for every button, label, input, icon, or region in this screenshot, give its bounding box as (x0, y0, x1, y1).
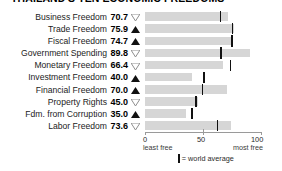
chart-row: Investment Freedom40.0 (0, 71, 282, 83)
trend-down-icon (131, 59, 141, 71)
trend-up-icon (131, 35, 141, 47)
row-label-financial-freedom: Financial Freedom (36, 84, 107, 96)
chart-row: Labor Freedom73.6 (0, 120, 282, 132)
chart-row: Business Freedom70.7 (0, 11, 282, 23)
row-value: 74.7 (101, 35, 128, 47)
world-average-tick (195, 96, 197, 107)
row-value: 70.7 (101, 11, 128, 23)
row-value: 40.0 (101, 71, 128, 83)
axis-tick-50-upper (203, 129, 204, 132)
world-average-tick (191, 108, 193, 119)
row-plot (145, 59, 262, 71)
row-value: 89.8 (101, 47, 128, 59)
axis-note-least-free: least free (143, 143, 173, 152)
row-value: 73.6 (101, 120, 128, 132)
row-value: 66.4 (101, 59, 128, 71)
chart-row: Government Spending89.8 (0, 47, 282, 59)
row-plot (145, 108, 262, 120)
row-label-monetary-freedom: Monetary Freedom (34, 59, 107, 71)
chart-row: Financial Freedom70.0 (0, 84, 282, 96)
world-average-tick (232, 23, 234, 34)
row-plot (145, 84, 262, 96)
row-label-fdm-from-corruption: Fdm. from Corruption (25, 108, 107, 120)
trend-down-icon (131, 11, 141, 23)
row-plot (145, 35, 262, 47)
row-plot (145, 71, 262, 83)
row-value: 75.9 (101, 23, 128, 35)
trend-down-icon (131, 47, 141, 59)
row-label-business-freedom: Business Freedom (35, 11, 107, 23)
trend-up-icon (131, 84, 141, 96)
legend-label: = world average (182, 154, 234, 163)
row-plot (145, 11, 262, 23)
row-label-property-rights: Property Rights (48, 96, 107, 108)
axis-label-mid: 50 (197, 135, 205, 144)
row-label-government-spending: Government Spending (21, 47, 107, 59)
score-bar (145, 24, 234, 33)
trend-down-icon (131, 120, 141, 132)
world-average-tick-icon (178, 154, 180, 163)
trend-up-icon (131, 23, 141, 35)
legend: = world average (178, 154, 234, 163)
score-bar (145, 85, 227, 94)
world-average-tick (217, 120, 219, 131)
trend-down-icon (131, 96, 141, 108)
row-label-investment-freedom: Investment Freedom (28, 71, 107, 83)
score-bar (145, 12, 228, 21)
chart-row: Property Rights45.0 (0, 96, 282, 108)
axis-note-most-free: most free (233, 143, 263, 152)
page-title: THAILAND'S TEN ECONOMIC FREEDOMS (11, 0, 224, 4)
row-value: 45.0 (101, 96, 128, 108)
score-bar (145, 37, 232, 46)
chart-row: Trade Freedom75.9 (0, 23, 282, 35)
row-label-trade-freedom: Trade Freedom (48, 23, 107, 35)
score-bar (145, 73, 192, 82)
world-average-tick (220, 47, 222, 58)
row-value: 70.0 (101, 84, 128, 96)
row-value: 35.0 (101, 108, 128, 120)
chart-rows: Business Freedom70.7Trade Freedom75.9Fis… (0, 11, 282, 132)
score-bar (145, 97, 198, 106)
chart-row: Fdm. from Corruption35.0 (0, 108, 282, 120)
trend-up-icon (131, 108, 141, 120)
row-plot (145, 96, 262, 108)
world-average-tick (203, 72, 205, 83)
score-bar (145, 109, 186, 118)
economic-freedoms-chart: THAILAND'S TEN ECONOMIC FREEDOMS Busines… (0, 0, 282, 171)
row-label-labor-freedom: Labor Freedom (48, 120, 107, 132)
row-label-fiscal-freedom: Fiscal Freedom (48, 35, 107, 47)
score-bar (145, 61, 223, 70)
chart-row: Fiscal Freedom74.7 (0, 35, 282, 47)
world-average-tick (231, 35, 233, 46)
world-average-tick (220, 11, 222, 22)
score-bar (145, 49, 250, 58)
trend-up-icon (131, 71, 141, 83)
chart-row: Monetary Freedom66.4 (0, 59, 282, 71)
world-average-tick (230, 60, 232, 71)
row-plot (145, 47, 262, 59)
row-plot (145, 23, 262, 35)
world-average-tick (202, 84, 204, 95)
